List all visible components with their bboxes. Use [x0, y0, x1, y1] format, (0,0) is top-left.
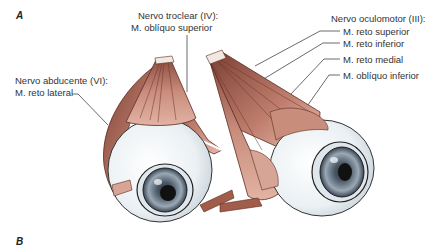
leader-medial-rectus: [290, 59, 340, 95]
leader-lateral-rectus: [72, 94, 108, 125]
leader-inferior-rectus: [262, 43, 340, 80]
leader-superior-rectus: [255, 31, 340, 66]
eye-muscles-illustration: [0, 0, 448, 250]
left-eye: [103, 56, 234, 222]
